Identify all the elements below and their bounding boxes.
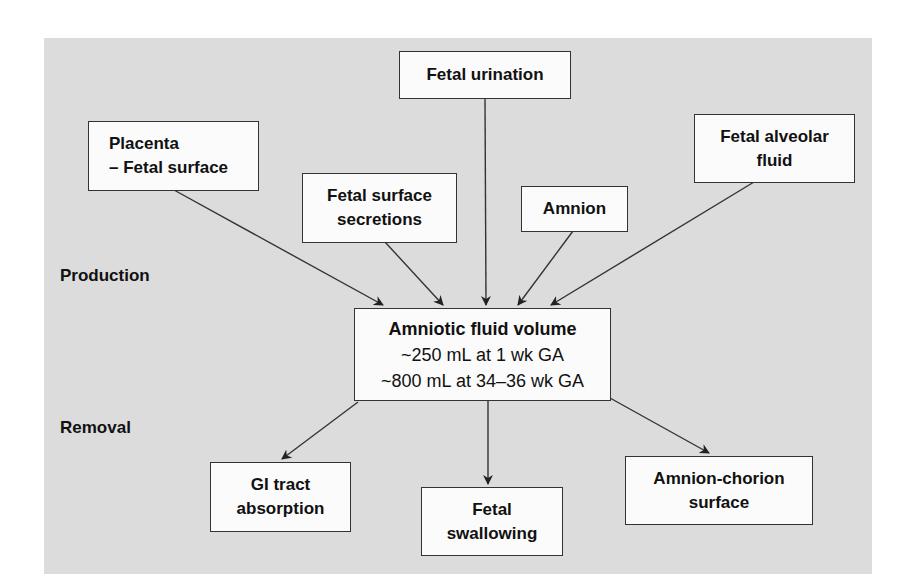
arrow-secretions-to-center (385, 242, 443, 305)
placenta-fetal-surface-box: Placenta – Fetal surface (88, 121, 259, 191)
center-volume-1wk: ~250 mL at 1 wk GA (401, 342, 564, 368)
box-text: swallowing (447, 522, 538, 546)
amnion-chorion-surface-box: Amnion-chorion surface (625, 456, 813, 525)
box-text: Amnion (543, 197, 606, 221)
fetal-swallowing-box: Fetal swallowing (421, 487, 563, 556)
gi-tract-absorption-box: GI tract absorption (210, 462, 351, 532)
arrow-center-to-gi (282, 402, 358, 459)
center-volume-34-36wk: ~800 mL at 34–36 wk GA (381, 368, 584, 394)
amniotic-fluid-volume-box: Amniotic fluid volume ~250 mL at 1 wk GA… (354, 308, 611, 401)
fetal-alveolar-fluid-box: Fetal alveolar fluid (694, 114, 855, 183)
amnion-box: Amnion (521, 186, 628, 232)
removal-label: Removal (60, 418, 131, 438)
box-text: Fetal urination (426, 63, 543, 87)
box-text: – Fetal surface (109, 156, 228, 180)
box-text: surface (689, 491, 749, 515)
box-text: absorption (237, 497, 325, 521)
production-label: Production (60, 266, 150, 286)
box-text: Placenta (109, 132, 179, 156)
center-title: Amniotic fluid volume (388, 316, 576, 342)
fetal-urination-box: Fetal urination (399, 51, 571, 99)
box-text: Fetal (472, 498, 512, 522)
box-text: secretions (337, 208, 422, 232)
box-text: Fetal surface (327, 184, 432, 208)
fetal-surface-secretions-box: Fetal surface secretions (302, 173, 457, 243)
box-text: Amnion-chorion (653, 467, 784, 491)
box-text: GI tract (251, 473, 311, 497)
arrow-urination-to-center (485, 98, 486, 305)
arrow-center-to-amnion-chorion (610, 398, 709, 453)
arrow-amnion-to-center (518, 231, 573, 305)
box-text: fluid (757, 149, 793, 173)
box-text: Fetal alveolar (720, 125, 829, 149)
